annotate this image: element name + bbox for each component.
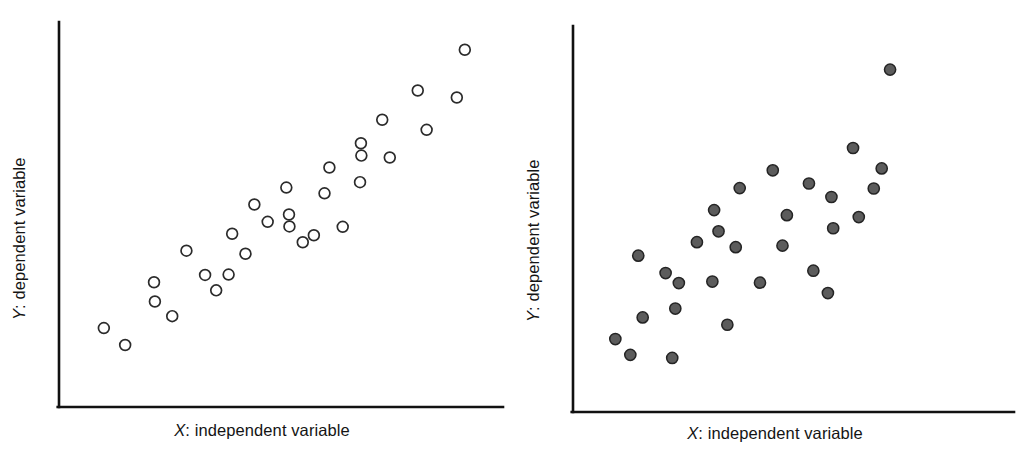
data-point — [660, 267, 671, 278]
data-point — [876, 163, 887, 174]
y-axis-variable-symbol-right: Y — [524, 311, 542, 322]
scatter-panel-right — [513, 0, 1026, 465]
data-point — [355, 177, 366, 188]
data-point — [707, 276, 718, 287]
x-axis-label-right: X: independent variable — [625, 424, 925, 442]
data-point — [262, 216, 273, 227]
data-point — [730, 242, 741, 253]
data-point — [637, 312, 648, 323]
data-point — [828, 223, 839, 234]
data-point — [120, 340, 131, 351]
data-point — [227, 228, 238, 239]
data-point — [451, 92, 462, 103]
data-point — [781, 210, 792, 221]
x-axis-label-text-right: : independent variable — [698, 424, 863, 442]
data-point — [421, 124, 432, 135]
data-point — [223, 269, 234, 280]
data-point — [308, 230, 319, 241]
data-point — [803, 178, 814, 189]
data-point — [610, 333, 621, 344]
scatter-plot-right — [513, 0, 1026, 465]
data-point — [149, 277, 160, 288]
data-point — [734, 183, 745, 194]
data-point — [625, 349, 636, 360]
x-axis-label-text-left: : independent variable — [185, 421, 350, 439]
data-point — [324, 162, 335, 173]
data-point — [847, 142, 858, 153]
y-axis-label-right: Y: dependent variable — [524, 159, 542, 322]
x-axis-label-left: X: independent variable — [112, 421, 412, 439]
data-point — [822, 288, 833, 299]
x-axis-variable-symbol-left: X — [174, 421, 185, 439]
data-point — [691, 237, 702, 248]
x-axis-variable-symbol-right: X — [687, 424, 698, 442]
data-points-left — [98, 44, 470, 350]
data-point — [808, 265, 819, 276]
data-point — [670, 303, 681, 314]
data-point — [767, 165, 778, 176]
data-point — [777, 240, 788, 251]
data-point — [297, 237, 308, 248]
data-point — [319, 188, 330, 199]
data-point — [249, 199, 260, 210]
data-point — [826, 191, 837, 202]
data-point — [284, 209, 295, 220]
y-axis-variable-symbol-left: Y — [10, 309, 28, 320]
y-axis-label-text-right: : dependent variable — [524, 159, 542, 311]
y-axis-label-left: Y: dependent variable — [10, 157, 28, 320]
y-axis-label-text-left: : dependent variable — [10, 157, 28, 309]
data-point — [98, 323, 109, 334]
data-point — [667, 352, 678, 363]
data-points-right — [610, 64, 896, 364]
data-point — [754, 277, 765, 288]
data-point — [240, 248, 251, 259]
data-point — [337, 221, 348, 232]
data-point — [709, 205, 720, 216]
data-point — [459, 44, 470, 55]
data-point — [377, 114, 388, 125]
data-point — [200, 270, 211, 281]
scatter-plot-left — [0, 0, 513, 465]
data-point — [356, 138, 367, 149]
data-point — [284, 221, 295, 232]
data-point — [853, 211, 864, 222]
data-point — [713, 226, 724, 237]
data-point — [868, 183, 879, 194]
data-point — [722, 319, 733, 330]
data-point — [884, 64, 895, 75]
data-point — [211, 285, 222, 296]
data-point — [281, 182, 292, 193]
data-point — [412, 85, 423, 96]
data-point — [633, 250, 644, 261]
scatter-panel-left: X: independent variable Y: dependent var… — [0, 0, 513, 465]
data-point — [673, 277, 684, 288]
data-point — [167, 311, 178, 322]
data-point — [356, 150, 367, 161]
data-point — [181, 245, 192, 256]
scatterplot-figure: X: independent variable Y: dependent var… — [0, 0, 1026, 465]
data-point — [150, 296, 161, 307]
data-point — [384, 152, 395, 163]
